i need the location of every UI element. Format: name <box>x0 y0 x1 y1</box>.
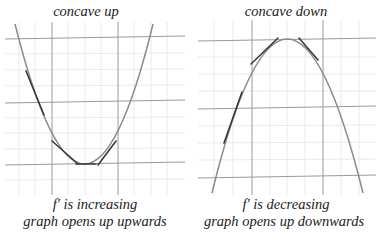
panel-concave-up: concave up f' is increasing graph opens … <box>0 0 190 232</box>
panel-title: concave down <box>190 3 378 20</box>
caption-line-1: f' is increasing <box>0 196 190 213</box>
panel-concave-down: concave down f' is decreasing graph open… <box>190 0 378 232</box>
caption-line-2: graph opens up upwards <box>0 213 190 230</box>
panel-title: concave up <box>0 3 172 20</box>
caption-line-1: f' is decreasing <box>190 196 378 213</box>
caption-line-2: graph opens up downwards <box>190 213 378 230</box>
